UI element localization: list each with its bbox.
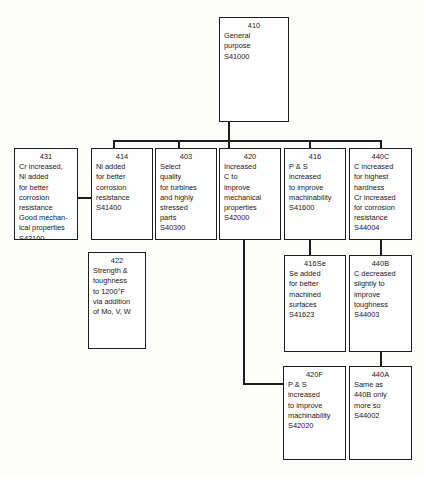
node-420f-desc: P & S increased to improve machinability… [288, 380, 341, 431]
node-440b-desc: C decreased slightly to improve toughnes… [354, 269, 407, 320]
node-416se[interactable]: 416Se Se added for better machined surfa… [284, 255, 346, 352]
node-420[interactable]: 420 Increased C to improve mechanical pr… [219, 148, 281, 240]
node-414-desc: Ni added for better corrosion resistance… [96, 162, 148, 213]
node-431[interactable]: 431 Cr increased, Ni added for better co… [14, 148, 78, 240]
connector-main-bus [113, 140, 381, 142]
node-422-code: 422 [93, 256, 141, 266]
node-403-code: 403 [160, 152, 212, 162]
node-420-desc: Increased C to improve mechanical proper… [224, 162, 276, 223]
node-422-desc: Strength & toughness to 1200°F via addit… [93, 266, 141, 317]
node-410[interactable]: 410 General purpose S41000 [219, 17, 289, 122]
node-431-code: 431 [19, 152, 73, 162]
node-440c-code: 440C [354, 152, 407, 162]
node-403[interactable]: 403 Select quality for turbines and high… [155, 148, 217, 240]
node-403-desc: Select quality for turbines and highly s… [160, 162, 212, 233]
node-440b[interactable]: 440B C decreased slightly to improve tou… [349, 255, 412, 352]
node-440c[interactable]: 440C C increased for highest hardness Cr… [349, 148, 412, 240]
connector-420-to-420f-vertical [243, 240, 245, 384]
node-416se-desc: Se added for better machined surfaces S4… [289, 269, 341, 320]
connector-420-to-420f-horizontal [243, 383, 283, 385]
node-440a-desc: Same as 440B only more so S44002 [354, 380, 407, 421]
node-422[interactable]: 422 Strength & toughness to 1200°F via a… [88, 252, 146, 349]
connector-410-stem [228, 122, 230, 141]
node-440a-code: 440A [354, 370, 407, 380]
flowchart-canvas: 410 General purpose S41000 431 Cr increa… [0, 0, 424, 478]
node-420-code: 420 [224, 152, 276, 162]
node-440c-desc: C increased for highest hardness Cr incr… [354, 162, 407, 233]
node-440a[interactable]: 440A Same as 440B only more so S44002 [349, 366, 412, 460]
node-416-desc: P & S increased to improve machinability… [289, 162, 341, 213]
connector-440b-to-440a [380, 352, 382, 367]
node-420f-code: 420F [288, 370, 341, 380]
connector-414-to-431 [78, 197, 91, 199]
node-431-desc: Cr increased, Ni added for better corros… [19, 162, 73, 240]
node-416-code: 416 [289, 152, 341, 162]
node-416[interactable]: 416 P & S increased to improve machinabi… [284, 148, 346, 240]
connector-416-to-416se [309, 240, 311, 255]
node-420f[interactable]: 420F P & S increased to improve machinab… [283, 366, 346, 460]
node-414-code: 414 [96, 152, 148, 162]
node-440b-code: 440B [354, 259, 407, 269]
node-410-code: 410 [224, 21, 284, 31]
connector-440c-to-440b [380, 240, 382, 255]
node-410-desc: General purpose S41000 [224, 31, 284, 62]
node-416se-code: 416Se [289, 259, 341, 269]
node-414[interactable]: 414 Ni added for better corrosion resist… [91, 148, 153, 240]
